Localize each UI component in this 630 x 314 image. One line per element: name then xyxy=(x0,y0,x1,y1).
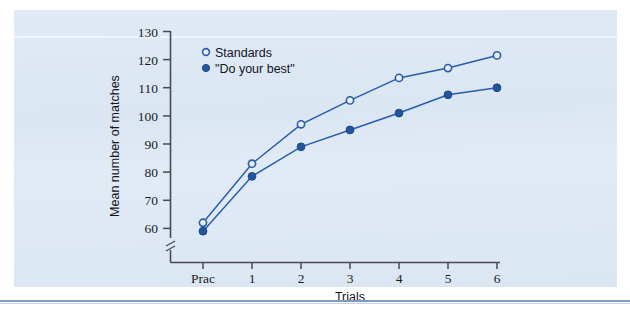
x-tick-label: 1 xyxy=(249,271,256,286)
y-tick-label: 100 xyxy=(138,109,159,124)
legend-marker-filled xyxy=(202,64,209,71)
data-point xyxy=(297,121,304,128)
x-tick-labels: Prac 1 2 3 4 5 6 xyxy=(191,271,501,286)
x-tick-label: 4 xyxy=(396,271,403,286)
series-line-1 xyxy=(203,55,497,222)
data-point xyxy=(395,74,402,81)
line-chart: 130 120 110 100 90 80 70 60 Prac 1 xyxy=(0,0,630,314)
y-ticks xyxy=(163,32,171,229)
x-tick-label: Prac xyxy=(191,271,215,286)
data-point xyxy=(444,91,452,99)
x-ticks xyxy=(203,263,497,270)
legend-label-standards: Standards xyxy=(215,46,272,60)
data-point xyxy=(444,64,451,71)
divider-rule xyxy=(0,300,630,302)
data-point xyxy=(493,52,500,59)
divider-rule-soft xyxy=(0,303,630,304)
legend-marker-open xyxy=(203,49,210,56)
data-point xyxy=(395,109,403,117)
data-point xyxy=(248,160,255,167)
data-point xyxy=(199,227,207,235)
legend-label-do-your-best: "Do your best" xyxy=(215,62,295,76)
y-tick-label: 130 xyxy=(138,25,159,40)
figure-root: 130 120 110 100 90 80 70 60 Prac 1 xyxy=(0,0,630,314)
data-point xyxy=(346,126,354,134)
y-axis-title: Mean number of matches xyxy=(108,75,122,217)
data-point xyxy=(493,84,501,92)
y-tick-label: 90 xyxy=(145,137,159,152)
data-point xyxy=(199,219,206,226)
data-point xyxy=(297,143,305,151)
x-tick-label: 5 xyxy=(445,271,452,286)
series-line-2 xyxy=(203,88,497,231)
data-point xyxy=(248,172,256,180)
y-tick-label: 110 xyxy=(138,81,158,96)
y-tick-label: 70 xyxy=(145,193,159,208)
axis-break-icon xyxy=(166,241,175,246)
x-tick-label: 2 xyxy=(298,271,305,286)
x-tick-label: 6 xyxy=(494,271,501,286)
y-tick-label: 120 xyxy=(138,53,159,68)
data-point xyxy=(346,97,353,104)
plot-series xyxy=(199,52,501,235)
y-tick-label: 60 xyxy=(145,221,159,236)
x-tick-label: 3 xyxy=(347,271,354,286)
y-tick-label: 80 xyxy=(145,165,159,180)
legend: Standards "Do your best" xyxy=(202,46,294,76)
y-tick-labels: 130 120 110 100 90 80 70 60 xyxy=(138,25,159,237)
